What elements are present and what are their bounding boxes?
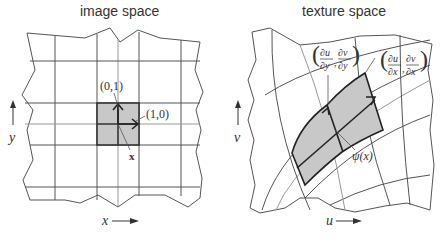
svg-text:): ) (352, 41, 360, 67)
svg-text:,: , (402, 63, 405, 74)
svg-text:∂u: ∂u (320, 47, 330, 58)
svg-text:,: , (334, 57, 337, 68)
v-arrowhead-icon (235, 100, 241, 108)
axis-label-u: u (326, 213, 333, 228)
axis-label-x: x (101, 213, 109, 228)
svg-text:∂v: ∂v (406, 53, 416, 64)
svg-text:∂u: ∂u (388, 53, 398, 64)
svg-text:(: ( (312, 41, 320, 67)
u-arrowhead-icon (353, 218, 362, 224)
axis-label-y: y (7, 130, 16, 145)
y-arrowhead-icon (10, 100, 16, 108)
svg-text:∂v: ∂v (338, 47, 348, 58)
svg-text:∂y: ∂y (320, 60, 330, 71)
label-1-0: (1,0) (146, 107, 169, 121)
svg-text:∂x: ∂x (388, 66, 398, 77)
svg-text:∂y: ∂y (338, 60, 348, 71)
label-psi-x: ψ(x) (352, 149, 373, 163)
svg-text:): ) (420, 46, 428, 72)
svg-text:∂x: ∂x (406, 66, 416, 77)
svg-text:(: ( (380, 46, 388, 72)
label-0-1: (0,1) (100, 79, 123, 93)
diagram-canvas: (0,1) (1,0) x y x ( ∂u (0, 0, 446, 243)
axis-label-v: v (234, 130, 241, 145)
label-point-x: x (129, 150, 135, 162)
x-arrowhead-icon (130, 218, 139, 224)
